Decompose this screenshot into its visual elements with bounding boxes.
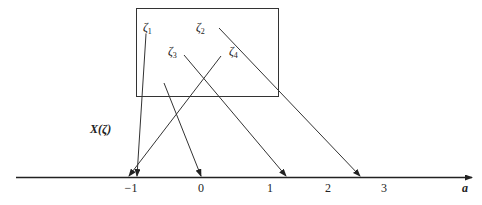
- tick-label: −1: [125, 181, 138, 195]
- tick-label: 0: [198, 181, 204, 195]
- sample-label-zeta1: ζ1: [143, 20, 152, 36]
- arrow-zeta2-to-2.5: [219, 28, 360, 176]
- axis-tick-labels: −10123: [125, 181, 387, 195]
- tick-label: 2: [325, 181, 331, 195]
- sample-label-zeta2: ζ2: [196, 20, 205, 36]
- sample-point-labels: ζ1ζ2ζ3ζ4: [143, 20, 238, 60]
- mapping-arrows: [129, 28, 360, 176]
- random-variable-diagram: ζ1ζ2ζ3ζ4 X(ζ) −10123 a: [0, 0, 482, 205]
- arrow-zeta1-to-minus1: [137, 34, 146, 176]
- tick-label: 3: [381, 181, 387, 195]
- axis-label: a: [462, 181, 468, 195]
- tick-label: 1: [267, 181, 273, 195]
- arrow-zeta4-to-minus1: [129, 56, 221, 176]
- sample-label-zeta3: ζ3: [168, 44, 177, 60]
- arrow-zeta3-to-1.2: [184, 55, 286, 176]
- mapping-label: X(ζ): [89, 122, 111, 136]
